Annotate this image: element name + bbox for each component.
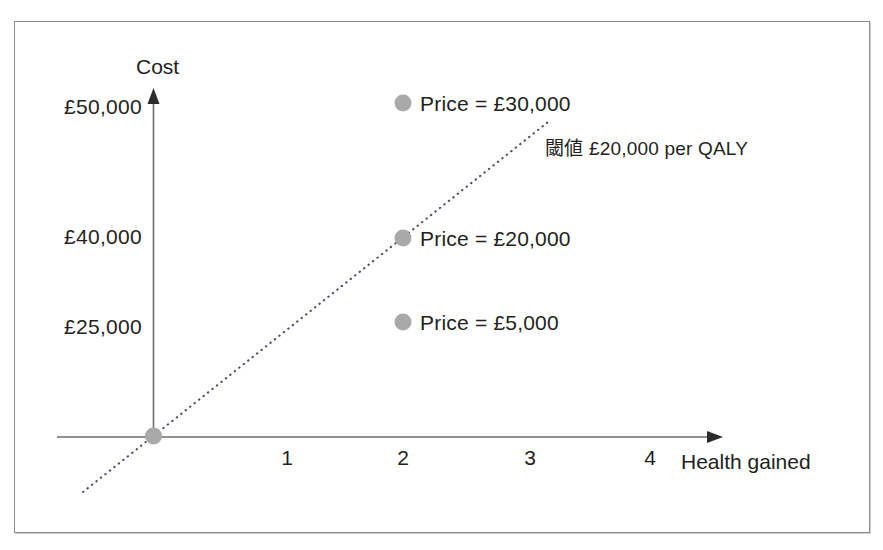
series-label-price-30000: Price = £30,000	[420, 92, 571, 116]
marker-price-5000	[395, 314, 412, 331]
y-tick-label-50000: £50,000	[50, 95, 142, 119]
y-tick-label-40000: £40,000	[50, 225, 142, 249]
x-tick-label-4: 4	[635, 446, 665, 470]
y-tick-label-25000: £25,000	[50, 315, 142, 339]
marker-price-20000	[395, 230, 412, 247]
x-tick-label-2: 2	[388, 446, 418, 470]
x-tick-label-3: 3	[515, 446, 545, 470]
marker-price-30000	[395, 95, 412, 112]
x-axis-arrowhead	[707, 431, 723, 443]
y-axis-arrowhead	[148, 88, 160, 104]
y-axis-title: Cost	[136, 55, 179, 79]
series-label-price-5000: Price = £5,000	[420, 311, 559, 335]
series-label-price-20000: Price = £20,000	[420, 227, 571, 251]
x-axis-title: Health gained	[681, 450, 811, 474]
marker-origin	[145, 428, 162, 445]
threshold-label: 閾値 £20,000 per QALY	[545, 133, 748, 160]
page-root: Cost £50,000 £40,000 £25,000 1 2 3 4 Hea…	[0, 0, 883, 550]
x-tick-label-1: 1	[272, 446, 302, 470]
